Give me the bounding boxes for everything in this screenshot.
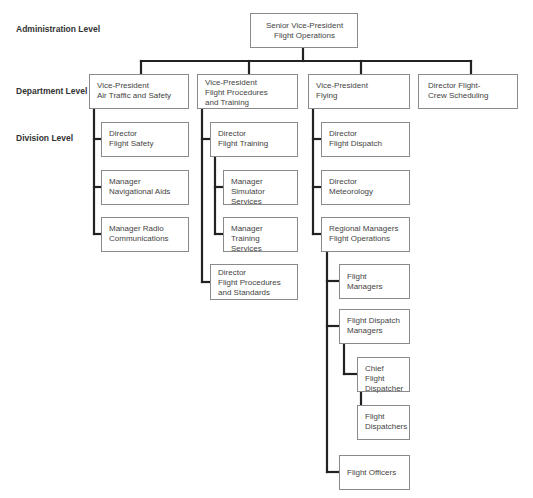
node-flight-dispatchers: Flight Dispatchers: [357, 405, 410, 440]
node-director-flight-safety: Director Flight Safety: [101, 122, 189, 157]
node-director-crew-scheduling: Director Flight- Crew Scheduling: [418, 74, 518, 109]
node-director-meteorology: Director Meteorology: [321, 170, 410, 205]
node-manager-radio-communications: Manager Radio Communications: [101, 217, 189, 252]
node-manager-training-services: Manager Training Services: [223, 217, 298, 252]
level-label-department: Department Level: [16, 86, 87, 96]
level-label-administration: Administration Level: [16, 24, 100, 34]
node-flight-managers: Flight Managers: [339, 264, 410, 299]
node-chief-flight-dispatcher: Chief Flight Dispatcher: [357, 357, 410, 392]
node-director-flight-procedures-standards: Director Flight Procedures and Standards: [210, 264, 298, 300]
level-label-division: Division Level: [16, 133, 73, 143]
node-director-flight-training: Director Flight Training: [210, 122, 298, 157]
node-senior-vp-flight-operations: Senior Vice-President Flight Operations: [250, 13, 358, 48]
node-vp-flying: Vice-President Flying: [308, 74, 410, 109]
node-director-flight-dispatch: Director Flight Dispatch: [321, 122, 410, 157]
node-manager-simulator-services: Manager Simulator Services: [223, 170, 298, 205]
node-vp-flight-procedures-training: Vice-President Flight Procedures and Tra…: [197, 74, 298, 109]
node-flight-dispatch-managers: Flight Dispatch Managers: [339, 309, 410, 344]
node-vp-air-traffic-safety: Vice-President Air Traffic and Safety: [89, 74, 189, 109]
node-manager-navigational-aids: Manager Navigational Aids: [101, 170, 189, 205]
node-regional-managers-flight-operations: Regional Managers Flight Operations: [321, 217, 410, 252]
node-flight-officers: Flight Officers: [339, 455, 410, 490]
